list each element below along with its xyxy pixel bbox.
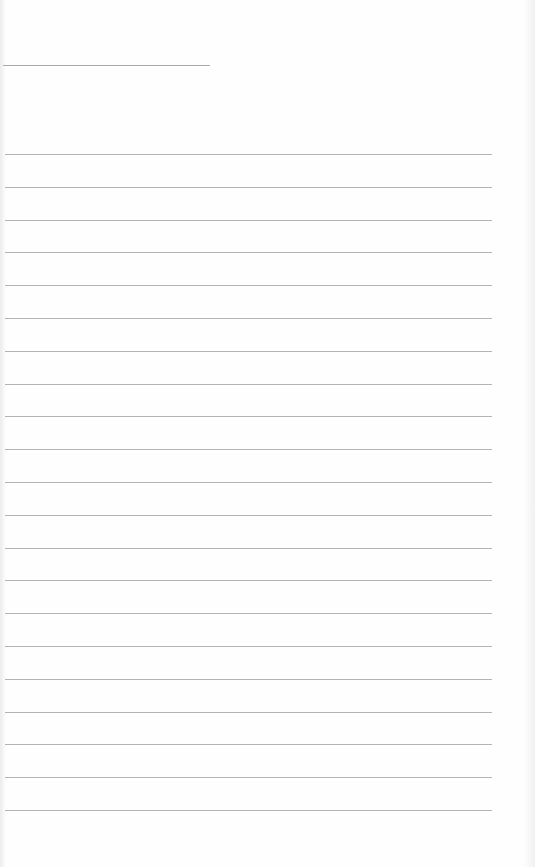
ruled-line [5,351,492,352]
ruled-line [5,482,492,483]
ruled-line [5,679,492,680]
ruled-line [5,318,492,319]
ruled-line [5,416,492,417]
ruled-line [5,646,492,647]
ruled-line [5,580,492,581]
ruled-line [5,154,492,155]
ruled-line [5,777,492,778]
ruled-line [5,712,492,713]
ruled-line [5,220,492,221]
header-name-line [3,65,210,66]
ruled-line [5,515,492,516]
ruled-line [5,252,492,253]
lined-paper-page [0,0,535,867]
ruled-line [5,187,492,188]
ruled-line [5,449,492,450]
ruled-line [5,285,492,286]
page-edge-shadow-right [523,0,535,867]
ruled-line [5,613,492,614]
page-edge-shadow-left [0,0,6,867]
ruled-line [5,384,492,385]
ruled-line [5,744,492,745]
ruled-line [5,810,492,811]
ruled-line [5,548,492,549]
